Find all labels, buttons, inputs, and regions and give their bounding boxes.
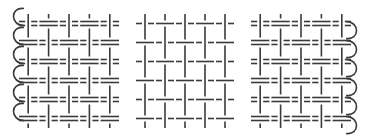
selvedge-loop [346,98,357,115]
selvedge-loop [14,103,25,120]
panel-middle-single-weave [136,14,234,128]
selvedge-loop [346,41,357,58]
selvedge-loop [346,79,357,96]
selvedge-loop [14,27,25,44]
weave-diagram [0,0,369,140]
selvedge-loop [14,46,25,63]
selvedge-loop [14,65,25,82]
selvedge-loop [346,117,357,134]
selvedge-loop [14,84,25,101]
selvedge-loop [346,22,357,39]
selvedge-loop [346,60,357,77]
weave-figure [0,0,369,140]
panel-left-doubled-weave [14,8,120,128]
panel-right-doubled-weave [251,14,357,134]
selvedge-loop [14,8,25,25]
